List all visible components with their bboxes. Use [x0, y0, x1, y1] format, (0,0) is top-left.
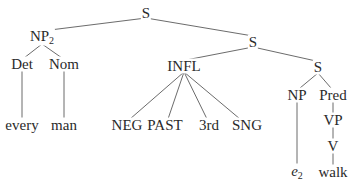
node-label: walk [318, 164, 347, 180]
node-label: INFL [167, 58, 200, 74]
node-label: S [249, 34, 257, 50]
node-man: man [50, 118, 78, 133]
node-vp: VP [322, 113, 343, 128]
node-infl: INFL [166, 59, 201, 74]
node-subscript: 2 [49, 35, 54, 46]
node-e2: e2 [290, 164, 304, 181]
node-label: Pred [319, 87, 347, 103]
node-label: NP [287, 87, 306, 103]
node-s-mid: S [248, 35, 258, 50]
node-label: NP [30, 28, 49, 44]
node-label: NEG [112, 117, 143, 133]
node-s-inner: S [313, 60, 323, 75]
node-np: NP [286, 88, 307, 103]
syntax-tree: S NP2 S Det Nom INFL S every man NEG PAS… [0, 0, 356, 184]
edge-infl-sng [184, 72, 240, 119]
edge-s-s [146, 18, 253, 36]
node-label: S [142, 5, 150, 21]
node-det: Det [10, 57, 34, 72]
node-label: VP [323, 112, 342, 128]
node-label: Det [11, 56, 33, 72]
node-sng: SNG [231, 118, 263, 133]
node-label: V [328, 138, 339, 154]
node-every: every [4, 118, 39, 133]
node-neg: NEG [111, 118, 144, 133]
node-label: PAST [147, 117, 182, 133]
node-label: 3rd [199, 117, 219, 133]
node-3rd: 3rd [198, 118, 220, 133]
node-label: e [291, 163, 298, 179]
node-pred: Pred [318, 88, 348, 103]
node-label: S [314, 59, 322, 75]
node-nom: Nom [48, 57, 80, 72]
edge-s-np2 [42, 18, 146, 31]
node-np2: NP2 [29, 29, 55, 46]
node-past: PAST [146, 118, 183, 133]
node-label: Nom [49, 56, 79, 72]
node-label: man [51, 117, 77, 133]
node-walk: walk [317, 165, 348, 180]
node-s-root: S [141, 6, 151, 21]
node-label: SNG [232, 117, 262, 133]
node-label: every [5, 117, 38, 133]
edge-infl-3rd [184, 72, 207, 119]
node-v: V [327, 139, 340, 154]
edge-s-s-inner [253, 47, 316, 61]
node-subscript: 2 [298, 170, 303, 181]
